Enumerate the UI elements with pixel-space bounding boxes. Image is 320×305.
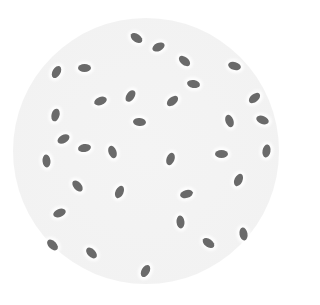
cell	[215, 150, 228, 158]
cell	[78, 64, 91, 72]
